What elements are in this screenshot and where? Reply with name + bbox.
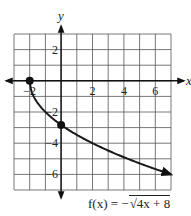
y-tick-label: 2 bbox=[52, 43, 58, 57]
radical-expression: √4x + 8 bbox=[129, 195, 170, 211]
curve-point-marker bbox=[57, 121, 65, 129]
function-graph: xy−22462−2−4−6 bbox=[0, 0, 191, 216]
x-tick-label: 6 bbox=[152, 84, 158, 98]
x-tick-label: 4 bbox=[121, 84, 127, 98]
function-label: f(x) = −√4x + 8 bbox=[88, 196, 170, 212]
radicand: 4x + 8 bbox=[137, 196, 170, 211]
x-axis-label: x bbox=[185, 73, 191, 88]
x-tick-label: 2 bbox=[90, 84, 96, 98]
y-axis-label: y bbox=[56, 8, 64, 23]
graph-canvas: xy−22462−2−4−6 bbox=[0, 0, 191, 216]
y-tick-label: −4 bbox=[45, 136, 58, 150]
y-tick-label: −6 bbox=[45, 167, 58, 181]
curve-point-marker bbox=[26, 77, 34, 85]
function-prefix: f(x) = − bbox=[88, 196, 129, 211]
